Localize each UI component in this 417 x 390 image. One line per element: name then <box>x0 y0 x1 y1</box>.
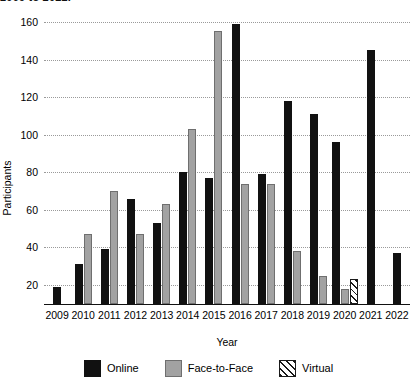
bar-group <box>253 14 279 304</box>
bar-group <box>201 14 227 304</box>
bar-online <box>75 264 83 304</box>
bar-f2f <box>341 289 349 304</box>
legend-item-online: Online <box>84 360 139 377</box>
legend-swatch-f2f <box>165 360 182 377</box>
bar-online <box>310 114 318 304</box>
bar-online <box>284 101 292 304</box>
chart-title: 2009 to 2022. <box>0 0 71 3</box>
bar-online <box>258 174 266 304</box>
bar-online <box>205 178 213 304</box>
bar-f2f <box>136 234 144 304</box>
legend-item-f2f: Face-to-Face <box>165 360 253 377</box>
y-tick-label: 140 <box>6 55 38 65</box>
bar-group <box>44 14 70 304</box>
bar-group <box>70 14 96 304</box>
bar-groups <box>44 14 410 304</box>
bar-online <box>153 223 161 304</box>
chart-title-clipped: 2009 to 2022. <box>0 0 417 9</box>
bar-group <box>122 14 148 304</box>
legend-label-virtual: Virtual <box>302 363 333 374</box>
legend-swatch-virtual <box>279 360 296 377</box>
bar-f2f <box>110 191 118 304</box>
bar-online <box>367 50 375 304</box>
legend-label-online: Online <box>107 363 139 374</box>
y-tick-label: 80 <box>6 167 38 177</box>
x-tick-label: 2022 <box>380 308 414 322</box>
participants-bar-chart: 2009 to 2022. Participants 2040608010012… <box>0 0 417 390</box>
bar-online <box>53 287 61 304</box>
y-tick-label: 60 <box>6 205 38 215</box>
bar-online <box>393 253 401 304</box>
bar-f2f <box>84 234 92 304</box>
bar-online <box>127 199 135 304</box>
bar-online <box>332 142 340 304</box>
bar-f2f <box>188 129 196 304</box>
x-axis-line <box>44 304 410 305</box>
bar-group <box>96 14 122 304</box>
legend-swatch-online <box>84 360 101 377</box>
bar-f2f <box>293 251 301 304</box>
bar-f2f <box>319 276 327 304</box>
bar-group <box>384 14 410 304</box>
bar-online <box>179 172 187 304</box>
x-axis-ticks: 2009201020112012201320142015201620172018… <box>44 308 410 324</box>
legend-label-f2f: Face-to-Face <box>188 363 253 374</box>
bar-online <box>232 24 240 304</box>
bar-group <box>279 14 305 304</box>
bar-group <box>149 14 175 304</box>
bar-online <box>101 249 109 304</box>
y-tick-label: 120 <box>6 92 38 102</box>
y-axis-title-wrap: Participants <box>0 130 15 250</box>
bar-f2f <box>241 184 249 304</box>
bar-virtual <box>350 279 358 304</box>
bar-f2f <box>214 31 222 304</box>
bar-group <box>227 14 253 304</box>
bar-group <box>332 14 358 304</box>
bar-group <box>175 14 201 304</box>
bar-f2f <box>162 204 170 304</box>
bar-group <box>358 14 384 304</box>
x-axis-title: Year <box>44 336 410 348</box>
y-axis-title: Participants <box>1 128 13 248</box>
y-tick-label: 160 <box>6 17 38 27</box>
legend-item-virtual: Virtual <box>279 360 333 377</box>
bar-group <box>305 14 331 304</box>
y-tick-label: 100 <box>6 130 38 140</box>
y-tick-label: 20 <box>6 280 38 290</box>
bar-f2f <box>267 184 275 304</box>
y-tick-label: 40 <box>6 242 38 252</box>
chart-legend: OnlineFace-to-FaceVirtual <box>0 360 417 377</box>
